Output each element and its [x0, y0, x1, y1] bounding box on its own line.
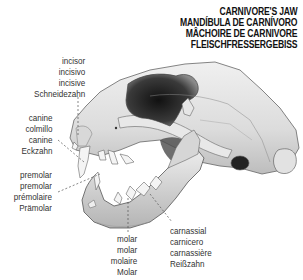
- incisor-es: incisivo: [34, 66, 85, 77]
- premolar-en: premolar: [14, 169, 52, 180]
- label-premolar: premolar premolar prémolaire Prämolar: [14, 169, 52, 213]
- canine-es: colmillo: [21, 123, 52, 134]
- upper-canine: [78, 146, 90, 178]
- diagram-title: CARNIVORE'S JAW MANDÍBULA DE CARNÍVORO M…: [180, 6, 297, 50]
- label-molar: molar molar molaire Molar: [111, 233, 137, 277]
- title-english: CARNIVORE'S JAW: [180, 6, 297, 17]
- title-french: MÂCHOIRE DE CARNIVORE: [180, 28, 297, 39]
- carnassial-en: carnassial: [170, 225, 212, 236]
- title-german: FLEISCHFRESSERGEBISS: [180, 39, 297, 50]
- molar-de: Molar: [111, 266, 137, 277]
- molar-fr: molaire: [111, 255, 137, 266]
- carnassial-es: carnicero: [170, 236, 212, 247]
- label-carnassial: carnassial carnicero carnassière Reißzah…: [170, 225, 212, 269]
- carnassial-de: Reißzahn: [170, 258, 212, 269]
- canine-de: Eckzahn: [21, 145, 52, 156]
- molar-en: molar: [111, 233, 137, 244]
- premolar-es: premolar: [14, 180, 52, 191]
- canine-fr: canine: [21, 134, 52, 145]
- incisor-en: incisor: [34, 55, 85, 66]
- label-incisor: incisor incisivo incisive Schneidezahn: [34, 55, 85, 99]
- premolar-fr: prémolaire: [14, 191, 52, 202]
- label-canine: canine colmillo canine Eckzahn: [21, 112, 52, 156]
- incisor-de: Schneidezahn: [34, 88, 85, 99]
- title-spanish: MANDÍBULA DE CARNÍVORO: [180, 17, 297, 28]
- carnassial-fr: carnassière: [170, 247, 212, 258]
- incisor-fr: incisive: [34, 77, 85, 88]
- canine-en: canine: [21, 112, 52, 123]
- molar-es: molar: [111, 244, 137, 255]
- premolar-de: Prämolar: [14, 202, 52, 213]
